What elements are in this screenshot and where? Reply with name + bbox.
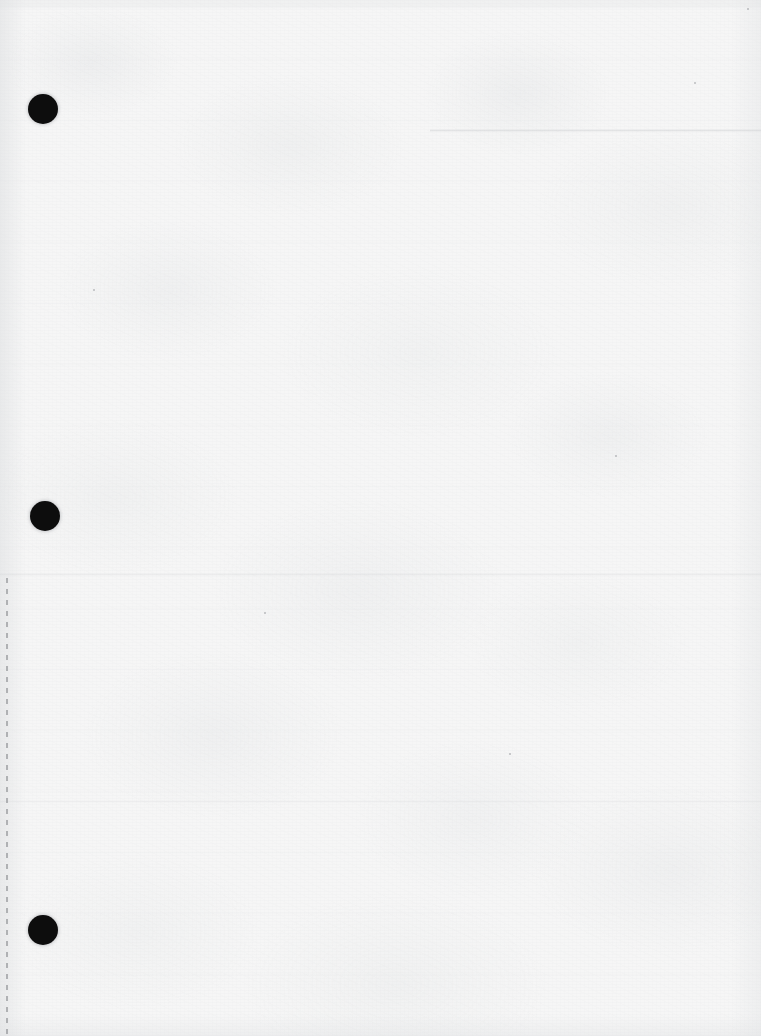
scanner-speck <box>93 289 95 291</box>
perforation-line <box>6 578 8 1036</box>
scanner-speck <box>694 82 696 84</box>
scanner-speck <box>615 455 617 457</box>
scanner-speck <box>509 753 511 755</box>
scanner-speck <box>747 8 749 10</box>
binder-hole-bottom-hole <box>28 915 58 945</box>
binder-hole-middle-hole <box>30 501 60 531</box>
paper-edge-vignette <box>0 0 761 1036</box>
scanned-page <box>0 0 761 1036</box>
binder-hole-top-hole <box>28 94 58 124</box>
scanner-speck <box>264 612 266 614</box>
